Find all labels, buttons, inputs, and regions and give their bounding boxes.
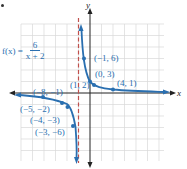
point-label: (0, 3) — [95, 70, 115, 79]
function-graph — [0, 0, 187, 169]
denominator: x + 2 — [26, 51, 45, 61]
x-axis-arrow-left-icon — [9, 91, 15, 96]
point-label: (1, 2) — [70, 81, 90, 90]
point-label: (−1, 6) — [94, 54, 119, 63]
right-branch-arrow-up-icon — [79, 24, 84, 31]
point-label: (−5, −2) — [20, 105, 50, 114]
point-label: (4, 1) — [117, 79, 137, 88]
point-label: (−3, −6) — [35, 128, 65, 137]
x-axis-label: x — [177, 88, 181, 98]
numerator: 6 — [30, 40, 41, 51]
function-label: f(x) = 6 x + 2 — [2, 40, 44, 61]
right-branch-arrow-right-icon — [163, 90, 170, 95]
x-axis-arrow-right-icon — [170, 91, 176, 96]
y-axis-arrow-down-icon — [88, 162, 93, 168]
y-axis-label: y — [86, 0, 90, 10]
point-label: (−8, −1) — [33, 88, 63, 97]
fraction: 6 x + 2 — [26, 40, 45, 61]
point-label: (−4, −3) — [30, 116, 60, 125]
function-lhs: f(x) = — [2, 46, 23, 56]
